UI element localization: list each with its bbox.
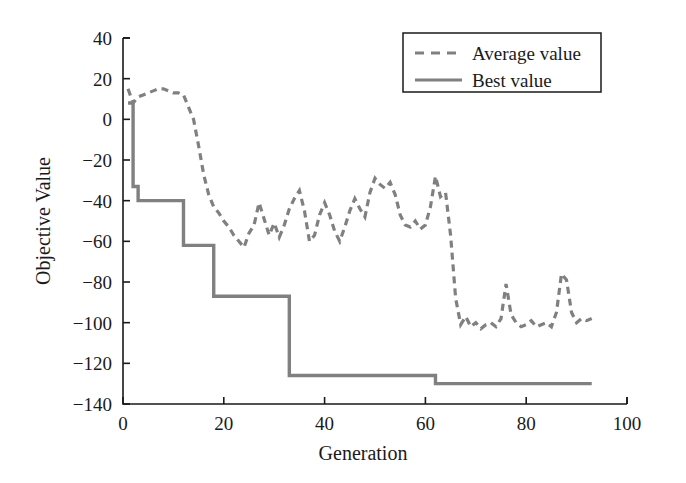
x-tick-label: 40	[315, 413, 334, 434]
x-tick-label: 60	[416, 413, 435, 434]
x-tick-label: 20	[214, 413, 233, 434]
y-tick-label: 0	[103, 109, 113, 130]
y-tick-label: −80	[82, 272, 112, 293]
x-axis-title: Generation	[319, 442, 408, 464]
legend: Average value Best value	[403, 33, 601, 92]
x-tick-label: 80	[517, 413, 536, 434]
y-tick-label: −40	[82, 191, 112, 212]
y-tick-label: −60	[82, 231, 112, 252]
y-tick-label: 20	[93, 69, 112, 90]
objective-value-line-chart: 40200−20−40−60−80−100−120−140 0204060801…	[0, 0, 686, 483]
y-axis-title: Objective Value	[32, 157, 55, 285]
y-tick-label: −120	[73, 353, 112, 374]
y-tick-label: −20	[82, 150, 112, 171]
x-tick-label: 100	[613, 413, 642, 434]
y-tick-label: −140	[73, 394, 112, 415]
y-tick-label: 40	[93, 28, 112, 49]
y-tick-label: −100	[73, 313, 112, 334]
legend-label-best-value: Best value	[472, 70, 552, 91]
chart-figure: 40200−20−40−60−80−100−120−140 0204060801…	[0, 0, 686, 483]
x-tick-label: 0	[118, 413, 128, 434]
legend-label-average-value: Average value	[472, 43, 581, 64]
